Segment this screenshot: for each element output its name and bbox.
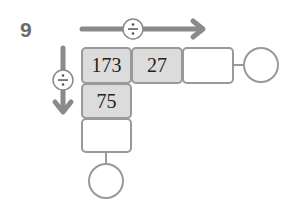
column-answer-box[interactable] [81,118,132,153]
cell-27: 27 [131,47,183,84]
cell-75: 75 [81,83,132,119]
diagram-lines [0,0,293,208]
row-answer-box[interactable] [182,47,234,84]
cell-173: 173 [81,47,132,84]
column-answer-circle [89,164,123,198]
row-answer-circle [244,48,278,82]
